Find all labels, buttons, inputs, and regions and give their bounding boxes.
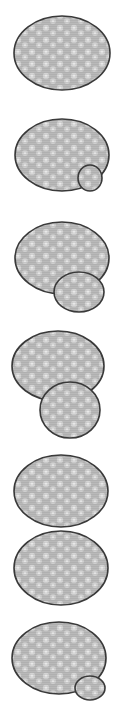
mother-cell-hatch <box>14 16 110 90</box>
cell-3 <box>15 222 109 312</box>
cells-layer <box>12 16 110 700</box>
cell-7 <box>12 622 106 700</box>
cell-5 <box>14 455 108 527</box>
budding-cells-diagram <box>0 0 116 719</box>
bud-cell-hatch <box>78 165 102 191</box>
daughter-cell-hatch <box>14 531 108 605</box>
daughter-cell-hatch <box>14 455 108 527</box>
bud-cell-hatch <box>40 382 100 438</box>
cell-6 <box>14 531 108 605</box>
cell-1 <box>14 16 110 90</box>
bud-cell-hatch <box>54 272 104 312</box>
bud-cell-hatch <box>75 676 105 700</box>
cell-2 <box>15 119 109 191</box>
cell-4 <box>12 331 104 438</box>
